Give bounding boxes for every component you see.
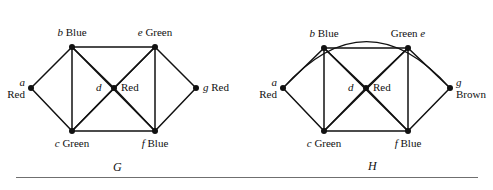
vertex-label-H-c: c Green (294, 138, 354, 150)
vertex-id-G-c: c (55, 137, 60, 149)
edge-H-a-b (283, 48, 324, 88)
vertex-G-b (69, 44, 75, 50)
horizontal-rule (16, 177, 478, 178)
vertex-H-a (280, 85, 286, 91)
vertex-id-label-H-d: d (348, 82, 354, 94)
vertex-id-G-b: b (57, 26, 63, 38)
graph-caption-h: H (368, 159, 377, 174)
vertex-label-H-e: Green e (378, 28, 438, 40)
vertex-label-G-f: f Blue (125, 138, 185, 150)
vertex-label-H-a: aRed (241, 77, 277, 101)
vertex-color-H-e: Green (391, 27, 418, 39)
vertex-color-G-e: Green (145, 26, 172, 38)
vertex-id-label-G-d: d (96, 82, 102, 94)
vertex-G-d (111, 85, 117, 91)
edge-H-e-g (408, 48, 450, 88)
vertex-label-H-g: gBrown (456, 77, 493, 101)
vertex-id-H-c: c (307, 137, 312, 149)
vertex-H-b (321, 45, 327, 51)
vertex-label-G-b: b Blue (42, 27, 102, 39)
vertex-color-H-b: Blue (318, 27, 339, 39)
vertex-id-G-f: f (142, 137, 145, 149)
vertex-id-H-g: g (456, 76, 462, 88)
vertex-color-H-a: Red (259, 88, 277, 100)
vertex-label-G-e: e Green (125, 27, 185, 39)
graph-caption-g: G (113, 160, 122, 175)
vertex-id-G-a: a (20, 76, 26, 88)
vertex-H-c (321, 128, 327, 134)
vertex-id-H-a: a (272, 76, 278, 88)
vertex-H-f (405, 128, 411, 134)
vertex-G-e (152, 44, 158, 50)
edge-G-f-g (155, 88, 196, 131)
vertex-color-G-a: Red (7, 88, 25, 100)
vertex-id-G-e: e (138, 26, 143, 38)
vertex-color-G-f: Blue (148, 137, 169, 149)
vertex-color-H-f: Blue (401, 137, 422, 149)
vertex-color-G-c: Green (62, 137, 89, 149)
vertex-label-H-f: f Blue (378, 138, 438, 150)
vertex-id-H-e: e (420, 27, 425, 39)
vertex-G-c (69, 128, 75, 134)
vertex-color-H-c: Green (314, 137, 341, 149)
vertex-label-G-a: aRed (0, 77, 25, 101)
vertex-id-H-d: d (348, 81, 354, 93)
vertex-id-H-f: f (395, 137, 398, 149)
vertex-color-H-g: Brown (456, 88, 486, 100)
edge-H-d-f (366, 88, 408, 131)
edge-G-e-g (155, 47, 196, 88)
vertex-label-G-g: g Red (203, 82, 229, 94)
vertex-H-d (363, 85, 369, 91)
edge-G-a-b (31, 47, 72, 88)
vertex-color-G-b: Blue (66, 26, 87, 38)
vertex-color-G-d: Red (121, 81, 139, 93)
vertex-label-G-c: c Green (42, 138, 102, 150)
vertex-color-G-g: Red (211, 81, 229, 93)
edge-G-d-f (114, 88, 155, 131)
vertex-G-g (193, 85, 199, 91)
edge-G-a-c (31, 88, 72, 131)
edge-H-a-c (283, 88, 324, 131)
vertex-id-H-b: b (309, 27, 315, 39)
vertex-G-f (152, 128, 158, 134)
vertex-label-G-d: Red (121, 82, 139, 94)
vertex-id-G-g: g (203, 81, 209, 93)
vertex-H-g (447, 85, 453, 91)
vertex-H-e (405, 45, 411, 51)
vertex-color-H-d: Red (373, 81, 391, 93)
vertex-label-H-d: Red (373, 82, 391, 94)
edge-H-f-g (408, 88, 450, 131)
vertex-label-H-b: b Blue (294, 28, 354, 40)
vertex-G-a (28, 85, 34, 91)
vertex-id-G-d: d (96, 81, 102, 93)
